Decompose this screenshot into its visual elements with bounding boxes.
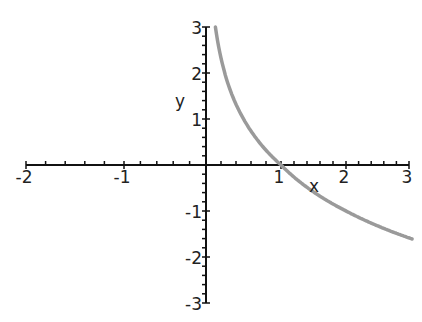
- y-tick-label: -2: [185, 248, 202, 268]
- axes: [26, 27, 409, 303]
- chart-plot: -2-1123321-1-2-3 x y: [0, 0, 422, 322]
- y-tick-label: 2: [191, 64, 202, 84]
- x-tick-label: 2: [339, 167, 350, 187]
- x-tick-label: 3: [402, 167, 413, 187]
- y-tick-label: -1: [185, 202, 202, 222]
- x-tick-label: -1: [114, 167, 131, 187]
- x-tick-label: -2: [16, 167, 33, 187]
- y-tick-label: -3: [185, 294, 202, 314]
- curve-series: [215, 27, 412, 239]
- y-tick-label: 1: [191, 110, 202, 130]
- x-axis-label: x: [309, 176, 319, 196]
- y-tick-label: 3: [191, 18, 202, 38]
- x-tick-label: 1: [274, 167, 285, 187]
- y-axis-label: y: [175, 91, 185, 111]
